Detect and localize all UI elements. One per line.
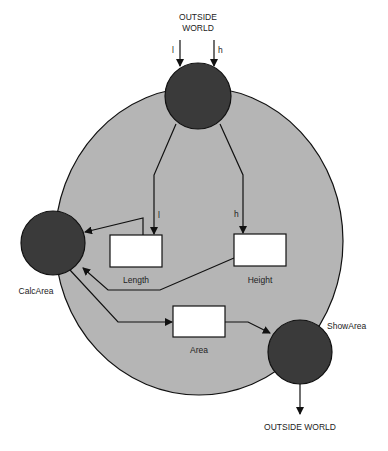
input-process	[165, 63, 231, 129]
flow-label-h-top: h	[218, 46, 223, 55]
data-flow-diagram	[0, 0, 388, 451]
show-area-process	[268, 320, 332, 384]
outside-world-top-line1: OUTSIDE	[179, 13, 217, 22]
store-length-label: Length	[123, 276, 149, 285]
store-height	[234, 234, 286, 266]
store-area	[173, 306, 225, 337]
flow-label-l-inner: l	[158, 211, 160, 220]
show-area-label: ShowArea	[327, 322, 366, 331]
store-area-label: Area	[190, 346, 208, 355]
outside-world-bottom: OUTSIDE WORLD	[264, 423, 336, 432]
store-height-label: Height	[248, 276, 273, 285]
flow-label-l-top: l	[172, 46, 174, 55]
calc-area-process	[21, 211, 85, 275]
flow-label-h-inner: h	[234, 210, 239, 219]
store-length	[110, 235, 162, 267]
outside-world-top-line2: WORLD	[182, 24, 214, 33]
calc-area-label: CalcArea	[19, 287, 54, 296]
